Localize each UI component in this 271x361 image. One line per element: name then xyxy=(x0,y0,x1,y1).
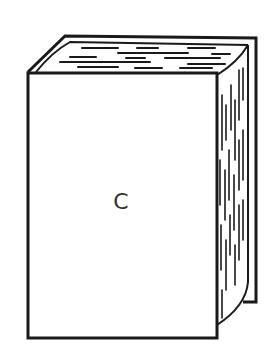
front-cover-label: C xyxy=(113,189,128,214)
top-page-lines xyxy=(60,48,230,68)
book-illustration: C xyxy=(0,0,271,361)
side-page-lines xyxy=(220,68,243,318)
